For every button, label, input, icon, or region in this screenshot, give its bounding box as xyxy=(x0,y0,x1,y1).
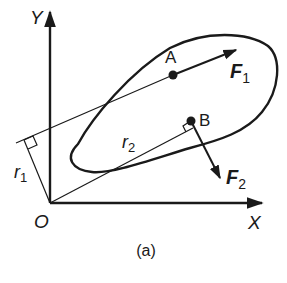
origin-label: O xyxy=(34,211,49,232)
force-f1-subscript: 1 xyxy=(242,70,250,86)
point-a-dot xyxy=(169,71,178,80)
r1-label: r1 xyxy=(14,162,27,185)
f1-line-of-action xyxy=(16,75,173,143)
point-b-label: B xyxy=(199,111,210,130)
r1-right-angle-marker xyxy=(24,136,37,149)
r1-moment-arm xyxy=(24,140,50,203)
point-b-dot xyxy=(187,117,196,126)
r1-subscript: 1 xyxy=(20,170,27,185)
force-f1-symbol: F xyxy=(230,60,243,82)
figure-caption: (a) xyxy=(136,242,156,259)
force-f1-arrow xyxy=(173,50,236,75)
y-axis-label: Y xyxy=(30,7,44,28)
force-f2-symbol: F xyxy=(226,166,239,188)
force-moment-diagram: Y X O A B F1 F2 r1 r2 (a) xyxy=(0,0,287,283)
r2-subscript: 2 xyxy=(128,140,135,155)
force-f1-label: F1 xyxy=(230,60,250,86)
r2-label: r2 xyxy=(122,132,135,155)
point-a-label: A xyxy=(165,48,177,67)
x-axis-label: X xyxy=(247,212,262,233)
force-f2-subscript: 2 xyxy=(238,176,246,192)
force-f2-label: F2 xyxy=(226,166,246,192)
